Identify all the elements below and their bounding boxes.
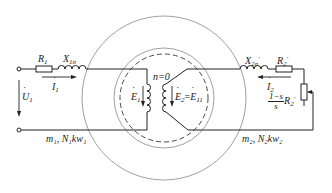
- input-terminal-bottom: [17, 128, 21, 132]
- label-u1: U1: [22, 92, 33, 105]
- input-terminal-top: [17, 67, 21, 71]
- stator-winding-coil: [147, 84, 151, 112]
- rotor-winding-coil: [163, 84, 167, 112]
- label-e2-eq-e11: E2=E11: [175, 92, 203, 105]
- label-speed: n=0: [153, 72, 170, 82]
- load-resistor: [301, 84, 307, 100]
- label-x1-sigma: X1σ: [63, 54, 76, 67]
- label-r2-prime: R2′: [277, 54, 288, 69]
- label-i1: I1: [52, 82, 59, 95]
- diagram-canvas: R1 X1σ I1 U1 E1 n=0 E2=E11 X2σ′ R2′ I2 1…: [0, 0, 332, 193]
- load-fraction: 1−ss: [268, 92, 284, 111]
- label-stator-winding: m₁, N₁kw₁: [46, 134, 86, 144]
- label-rotor-winding: m₂, N₂kw₂: [242, 134, 282, 144]
- label-load-resistance: 1−ssR2′: [268, 92, 295, 111]
- label-e1: E1: [131, 92, 141, 105]
- label-r1: R1: [38, 54, 48, 67]
- label-x2-sigma-prime: X2σ′: [245, 54, 260, 69]
